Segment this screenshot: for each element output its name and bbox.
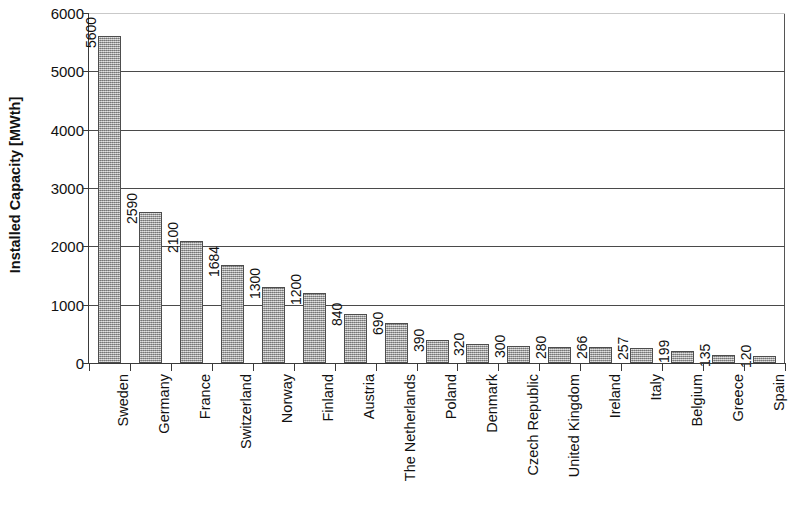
x-axis-tick-mark (621, 364, 622, 371)
x-axis-tick-mark (580, 364, 581, 371)
x-axis-tick-mark (539, 364, 540, 371)
x-axis-category-label: Belgium (689, 374, 705, 426)
x-axis-tick-mark (662, 364, 663, 371)
x-axis-tick-mark (744, 364, 745, 371)
bar-value-label: 320 (451, 333, 467, 356)
x-axis-tick-mark (417, 364, 418, 371)
x-axis-category-label: Italy (648, 374, 664, 401)
x-axis-category-label: Switzerland (238, 374, 254, 449)
x-axis-tick-mark (294, 364, 295, 371)
x-axis-category-label: The Netherlands (402, 374, 418, 481)
x-axis-line (89, 363, 786, 364)
x-axis-tick-mark (785, 364, 786, 371)
x-axis-tick-mark (335, 364, 336, 371)
bar-value-label: 1684 (206, 246, 222, 277)
bar-value-label: 840 (329, 303, 345, 326)
x-axis-category-label: Spain (771, 374, 787, 411)
bar (589, 347, 612, 363)
bar-value-label: 257 (615, 337, 631, 360)
bar (630, 348, 653, 363)
y-axis-tick-label: 6000 (26, 5, 84, 22)
x-axis-tick-mark (498, 364, 499, 371)
y-axis-tick-label: 4000 (26, 121, 84, 138)
gridline (89, 71, 785, 72)
y-axis-tick-label: 3000 (26, 180, 84, 197)
x-axis-category-label: Finland (320, 374, 336, 422)
y-axis-tick-labels: 0100020003000400050006000 (26, 0, 84, 380)
bar (98, 36, 121, 363)
bar-value-label: 390 (411, 329, 427, 352)
plot-area (89, 13, 785, 363)
bar (753, 356, 776, 363)
bar-value-label: 266 (574, 336, 590, 359)
x-axis-category-label: Sweden (115, 374, 131, 426)
x-axis-category-label: Austria (361, 374, 377, 419)
bar (466, 344, 489, 363)
bar-chart: Installed Capacity [MWth] 01000200030004… (0, 0, 794, 516)
bar (507, 346, 530, 364)
bar (548, 347, 571, 363)
x-axis-category-label: United Kingdom (566, 374, 582, 477)
x-axis-tick-mark (703, 364, 704, 371)
bar (671, 351, 694, 363)
x-axis-category-label: Greece (730, 374, 746, 422)
bar (712, 355, 735, 363)
bar-value-label: 1300 (247, 268, 263, 299)
bar (344, 314, 367, 363)
bar-value-label: 199 (656, 340, 672, 363)
bar (426, 340, 449, 363)
x-axis-tick-mark (376, 364, 377, 371)
bar (180, 241, 203, 364)
bar (262, 287, 285, 363)
x-axis-tick-mark (171, 364, 172, 371)
bar-value-label: 690 (370, 311, 386, 334)
y-axis-tick-label: 5000 (26, 63, 84, 80)
gridline (89, 13, 785, 14)
bar-value-label: 1200 (288, 274, 304, 305)
x-axis-tick-mark (253, 364, 254, 371)
x-axis-tick-mark (130, 364, 131, 371)
x-axis-tick-mark (457, 364, 458, 371)
bar-value-label: 2100 (165, 221, 181, 252)
bar-value-label: 120 (738, 345, 754, 368)
x-axis-category-label: Norway (279, 374, 295, 423)
bar (221, 265, 244, 363)
x-axis-category-label: Denmark (484, 374, 500, 433)
y-axis-tick-label: 1000 (26, 296, 84, 313)
bar-value-label: 2590 (124, 193, 140, 224)
gridline (89, 188, 785, 189)
x-axis-category-label: Poland (443, 374, 459, 419)
x-axis-tick-mark (89, 364, 90, 371)
x-axis-category-label: Ireland (607, 374, 623, 418)
bar-value-label: 5600 (83, 17, 99, 48)
bar-value-label: 280 (533, 335, 549, 358)
y-axis-tick-label: 2000 (26, 238, 84, 255)
y-axis-title-text: Installed Capacity [MWth] (7, 97, 23, 273)
x-axis-category-label: Germany (156, 374, 172, 434)
bar-value-label: 300 (492, 334, 508, 357)
x-axis-category-label: Czech Republic (525, 374, 541, 476)
x-axis-category-label: France (197, 374, 213, 419)
y-axis-tick-label: 0 (26, 355, 84, 372)
bar (139, 212, 162, 363)
bar (385, 323, 408, 363)
bar (303, 293, 326, 363)
x-axis-tick-mark (212, 364, 213, 371)
gridline (89, 130, 785, 131)
